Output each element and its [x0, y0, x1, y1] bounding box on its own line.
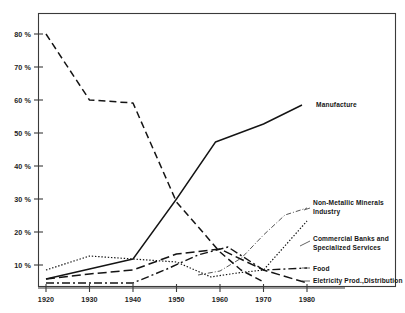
y-tick-label: 50 %	[14, 129, 31, 138]
series-line-food	[46, 247, 307, 283]
y-tick-label: 80 %	[14, 30, 31, 39]
series-label-banks-line2: Specialized Services	[313, 244, 381, 252]
series-label-food: Food	[313, 265, 330, 272]
y-axis-labels: 80 % 70 % 60 % 50 % 40 % 30 % 20 % 10 %	[14, 30, 31, 270]
y-tick-label: 30 %	[14, 195, 31, 204]
series-label-manufacture: Manufacture	[316, 101, 357, 108]
x-tick-label: 1930	[81, 295, 97, 304]
y-tick-label: 10 %	[14, 261, 31, 270]
series-line-commercial-banks	[46, 221, 307, 277]
series-label-electricity: Eletricity Prod.,Distribution	[313, 277, 403, 285]
chart-svg: 80 % 70 % 60 % 50 % 40 % 30 % 20 % 10 % …	[0, 0, 405, 313]
x-tick-label: 1980	[299, 295, 315, 304]
x-tick-label: 1950	[168, 295, 184, 304]
series-line-manufacture	[46, 105, 302, 279]
y-tick-label: 60 %	[14, 96, 31, 105]
series-label-minerals-line1: Non-Metallic Minerals	[313, 199, 384, 206]
x-tick-label: 1970	[255, 295, 271, 304]
x-tick-label: 1920	[38, 295, 54, 304]
x-axis-labels: 1920 1930 1940 1950 1960 1970 1980	[38, 295, 315, 304]
series-line-electricity	[46, 249, 307, 283]
y-tick-label: 70 %	[14, 63, 31, 72]
series-label-banks-line1: Commercial Banks and	[313, 235, 389, 242]
series-line-agriculture	[46, 34, 264, 282]
x-tick-label: 1960	[212, 295, 228, 304]
y-tick-label: 40 %	[14, 162, 31, 171]
series-label-minerals-line2: Industry	[313, 208, 340, 216]
leader-line-banks	[300, 241, 310, 246]
line-chart-figure: 80 % 70 % 60 % 50 % 40 % 30 % 20 % 10 % …	[0, 0, 405, 313]
y-tick-label: 20 %	[14, 228, 31, 237]
x-tick-label: 1940	[125, 295, 141, 304]
